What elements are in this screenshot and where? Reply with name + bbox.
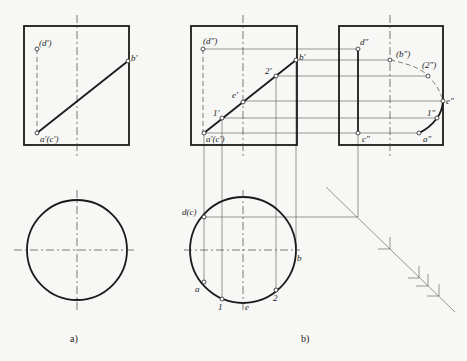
point-b-prime-front — [294, 58, 298, 62]
label-d-double-prime-front: (d″) — [203, 36, 217, 46]
label-b-prime-front: b′ — [299, 52, 307, 62]
point-1-double-prime — [435, 116, 439, 120]
label-e-double-prime: e″ — [446, 96, 454, 106]
label-a-prime-c-prime: a′(c′) — [40, 134, 58, 144]
orthographic-projection-diagram: (d′) b′ a′(c′) a) — [0, 0, 467, 361]
point-b-prime — [126, 59, 130, 63]
projection-lines — [203, 49, 455, 312]
figure-b: (d″) b′ 2′ e′ 1′ a′(c′) d″ (b″) (2″) e″ … — [182, 15, 455, 345]
point-e-prime — [241, 100, 245, 104]
label-1-double-prime: 1″ — [427, 108, 436, 118]
point-b-double-prime — [388, 58, 392, 62]
figure-a-cut-line — [37, 61, 128, 133]
label-2-prime: 2′ — [265, 66, 273, 76]
label-c-double-prime: c″ — [362, 134, 370, 144]
label-b-top: b — [297, 253, 302, 263]
label-b-prime: b′ — [131, 53, 139, 63]
figure-b-cut-line — [204, 60, 296, 133]
label-d-prime: (d′) — [39, 38, 51, 48]
label-2-top: 2 — [273, 293, 278, 303]
label-d-double-prime: d″ — [360, 37, 369, 47]
point-2-top — [274, 288, 278, 292]
point-2-double-prime — [426, 74, 430, 78]
point-c-double-prime — [356, 131, 360, 135]
point-a-double-prime — [417, 131, 421, 135]
label-e-top: e — [245, 302, 249, 312]
label-a-double-prime: a″ — [423, 134, 432, 144]
point-a-top — [202, 280, 206, 284]
point-dc-top — [202, 215, 206, 219]
figure-a: (d′) b′ a′(c′) a) — [14, 15, 139, 345]
caption-b: b) — [301, 333, 309, 345]
point-e-double-prime — [441, 99, 445, 103]
point-1-top — [220, 297, 224, 301]
point-a-prime — [35, 131, 39, 135]
point-d-double-prime-front — [201, 47, 205, 51]
point-2-prime — [274, 74, 278, 78]
miter-tick-4 — [427, 284, 439, 296]
miter-line-45deg — [326, 187, 455, 312]
label-b-double-prime: (b″) — [396, 49, 410, 59]
label-1-prime: 1′ — [213, 108, 221, 118]
label-a-top: a — [195, 284, 200, 294]
caption-a: a) — [70, 333, 78, 345]
label-a-prime-c-prime-front: a′(c′) — [206, 134, 224, 144]
point-d-double-prime — [356, 47, 360, 51]
point-1-prime — [220, 116, 224, 120]
label-e-prime: e′ — [232, 90, 239, 100]
label-2-double-prime: (2″) — [422, 60, 436, 70]
label-dc-top: d(c) — [182, 207, 197, 217]
label-1-top: 1 — [218, 302, 223, 312]
